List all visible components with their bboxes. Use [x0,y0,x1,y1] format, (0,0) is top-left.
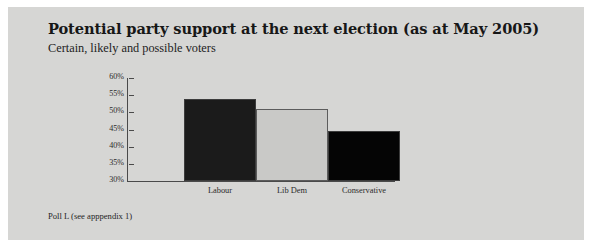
x-axis-label-conservative: Conservative [328,186,400,195]
bar-lib-dem [256,109,328,181]
figure-panel: Potential party support at the next elec… [8,7,584,240]
y-axis-tick-mark [129,130,134,131]
y-axis-tick-label: 45% [109,124,124,133]
x-axis-label-labour: Labour [184,186,256,195]
chart-plot-area: 60%55%50%45%40%35%30% LabourLib DemConse… [8,7,584,240]
y-axis-tick-label: 50% [109,106,124,115]
y-axis-tick-label: 55% [109,89,124,98]
x-axis-baseline [127,181,395,182]
y-axis-tick: 60% [86,78,134,79]
x-axis-label-lib-dem: Lib Dem [256,186,328,195]
y-axis-tick-label: 35% [109,158,124,167]
y-axis-tick: 45% [86,130,134,131]
y-axis-tick: 30% [86,181,134,182]
y-axis-tick-label: 40% [109,141,124,150]
y-axis-tick-mark [129,95,134,96]
y-axis-tick-mark [129,78,134,79]
y-axis-tick-mark [129,112,134,113]
bar-conservative [328,131,400,181]
y-axis-tick-mark [129,164,134,165]
y-axis-tick-mark [129,181,134,182]
bar-labour [184,99,256,181]
chart-footnote: Poll L (see apppendix 1) [48,211,132,221]
y-axis-tick: 35% [86,164,134,165]
y-axis-tick-mark [129,147,134,148]
y-axis-tick-label: 30% [109,175,124,184]
y-axis-tick: 40% [86,147,134,148]
y-axis-tick: 55% [86,95,134,96]
y-axis-tick-label: 60% [109,72,124,81]
y-axis-tick: 50% [86,112,134,113]
